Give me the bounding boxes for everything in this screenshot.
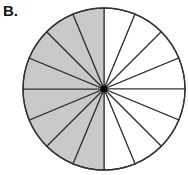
fraction-circle bbox=[0, 0, 188, 175]
center-dot bbox=[101, 86, 108, 93]
